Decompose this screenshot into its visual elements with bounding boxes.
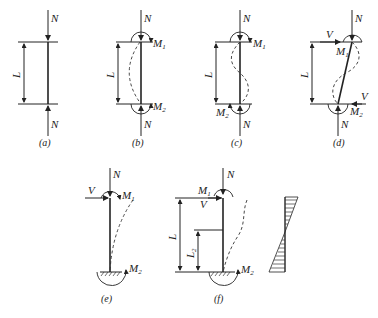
top-moment-label: M1 [197,184,211,198]
top-force-label: N [112,168,121,180]
top-force-label: N [50,12,59,24]
top-moment-label: M1 [335,45,349,59]
bottom-moment-label: M2 [240,263,254,277]
bottom-force-label: N [50,118,59,130]
length2-label: L2 [184,248,198,259]
bottom-force-label: N [340,118,349,130]
caption-a: (a) [39,137,51,149]
caption-e: (e) [101,293,113,305]
bottom-force-label: N [242,118,251,130]
bottom-shear-label: V [361,90,369,102]
top-force-label: N [226,168,235,180]
length-label: L [202,72,214,79]
length-label: L [104,72,116,79]
column-loading-diagram: N N L (a) N M1 M2 N L (b) N M1 [0,0,378,318]
top-moment-label: M1 [252,37,266,51]
panel-e: N M1 V M2 (e) [85,168,142,305]
top-shear-label: V [88,184,96,196]
length-label: L [298,72,310,79]
panel-d: N V M1 V M2 N L (d) [298,10,369,149]
deflected-shape [129,42,141,104]
top-force-label: N [242,12,251,24]
fixed-support-hatch [101,272,120,276]
top-force-label: N [354,12,363,24]
caption-d: (d) [333,137,345,149]
top-force-label: N [143,12,152,24]
bottom-moment-label: M2 [152,100,166,114]
bottom-moment-label: M2 [128,262,142,276]
fixed-support-hatch [211,272,230,276]
panel-a: N N L (a) [10,10,59,149]
length-label: L [10,72,22,79]
bottom-moment-label: M2 [349,105,363,119]
bottom-moment-label: M2 [215,106,229,120]
moment-diagram [269,197,298,272]
caption-b: (b) [132,137,144,149]
caption-c: (c) [231,137,243,149]
top-shear-label: V [200,198,208,210]
deflected-shape [223,200,247,272]
panel-c: N M1 M2 N L (c) [202,10,266,149]
length-label: L [166,234,178,241]
top-shear-label: V [326,28,334,40]
caption-f: (f) [214,293,224,305]
bottom-force-label: N [143,118,152,130]
panel-b: N M1 M2 N L (b) [104,10,166,149]
panel-f: N M1 V M2 L L2 (f) [166,168,254,305]
top-moment-label: M1 [152,37,166,51]
